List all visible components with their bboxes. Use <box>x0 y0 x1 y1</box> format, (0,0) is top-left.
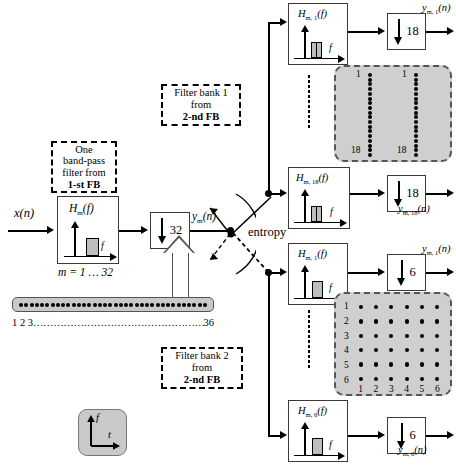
callout-bank2-line1: Filter bank 2 <box>175 350 229 362</box>
bank1-b1-filter-box: Hm, 1(f) f <box>288 3 348 65</box>
bank1-b2-arrowhead-out <box>447 189 454 197</box>
callout-stage1-line3: filter from <box>62 167 105 179</box>
bank2-b2-filter-arg: (f) <box>317 405 327 416</box>
bank2-b2-filter-label: H <box>298 405 306 416</box>
bank1-b1-filter-sub: m, 1 <box>306 14 318 21</box>
ft-legend-box: f t <box>78 409 127 456</box>
channel-dot <box>24 303 28 307</box>
downsample-arrow-icon <box>397 260 406 286</box>
bank1-b2-filter-sub: m, 18 <box>304 178 319 185</box>
bank1-b1-output-label: ym, 1(n) <box>422 2 450 15</box>
channel-dot <box>61 303 65 307</box>
callout-bank1-line1: Filter bank 1 <box>174 87 228 99</box>
downsample-arrow-icon <box>394 19 403 45</box>
channel-dot <box>40 303 44 307</box>
bank1-b2-arrowhead-mid <box>378 189 385 197</box>
bank2-b1-output-label: ym, 1(n) <box>422 243 450 256</box>
bank1-b2-wire-out <box>426 193 449 195</box>
channel-dot <box>72 303 76 307</box>
bank1-bus <box>268 22 270 194</box>
bank1-tiling-column-2 <box>414 73 418 157</box>
channel-dot <box>156 303 160 307</box>
diagram-canvas: One band-pass filter from 1-st FB x(n) H… <box>0 0 456 466</box>
channel-dot <box>35 303 39 307</box>
bank1-b1-filter-label: H <box>298 8 306 19</box>
input-arrowhead <box>47 226 54 234</box>
callout-bank1: Filter bank 1 from 2-nd FB <box>161 84 241 126</box>
bank1-b1-axis-f-label: f <box>329 42 332 53</box>
bank2-b1-filter-label: H <box>298 248 306 259</box>
bank2-b1-axis-f-label: f <box>329 282 332 293</box>
bank1-tiling-column-1 <box>368 73 372 157</box>
bank1-b2-filter-arg: (f) <box>318 172 328 183</box>
channel-dot <box>66 303 70 307</box>
channel-strip-axis: 1 2 3 …………………………………………………………… 36 <box>12 317 214 328</box>
callout-bank2-line2: from <box>192 362 212 374</box>
bank2-b2-spectrum-plot: f <box>294 424 346 460</box>
channel-dot <box>82 303 86 307</box>
channel-dot <box>161 303 165 307</box>
channel-dot <box>108 303 112 307</box>
stage1-filter-arg: (f) <box>83 202 94 214</box>
bank1-col2-bottom-label: 18 <box>397 145 407 155</box>
bank1-b1-spectrum-plot: f <box>294 27 346 63</box>
bank2-b2-arrowhead-out <box>447 431 454 439</box>
bank2-column-label: 3 <box>389 384 394 394</box>
callout-bank1-line3: 2-nd FB <box>183 111 219 123</box>
bank2-b2-wire-out <box>426 435 449 437</box>
callout-stage1-line4: 1-st FB <box>68 179 100 191</box>
bank2-b2-arrowhead-in <box>280 431 287 439</box>
bank2-b1-wire-out <box>426 272 449 274</box>
bank2-column-label: 4 <box>404 384 409 394</box>
bank2-b1-wire-mid <box>348 272 380 274</box>
channel-dot <box>45 303 49 307</box>
entropy-label: entropy <box>248 225 286 240</box>
ft-legend-f-label: f <box>96 412 99 423</box>
bank1-b2-arrowhead-in <box>280 189 287 197</box>
channel-dot <box>119 303 123 307</box>
bank2-continuation-dots <box>308 310 310 370</box>
bank2-b2-filter-sub: m, 6 <box>306 411 318 418</box>
callout-stage1-filter: One band-pass filter from 1-st FB <box>51 141 117 193</box>
bank1-b2-spectrum-plot: f <box>294 191 348 227</box>
bank2-column-label: 6 <box>435 384 440 394</box>
channel-dot <box>177 303 181 307</box>
input-wire <box>8 230 48 232</box>
bank2-b2-axis-f-label: f <box>329 439 332 450</box>
bank2-b1-arrowhead-out <box>447 268 454 276</box>
channel-dot <box>129 303 133 307</box>
bank1-b1-downsample-factor: 18 <box>406 24 419 39</box>
channel-dot <box>150 303 154 307</box>
channel-dot <box>77 303 81 307</box>
bank2-b2-output-label: ym, 6(n) <box>398 444 426 457</box>
entropy-selector-arc <box>196 188 256 280</box>
bank2-b1-filter-arg: (f) <box>317 248 327 259</box>
bank1-continuation-dots <box>308 75 310 130</box>
channel-dot <box>166 303 170 307</box>
channel-dot <box>145 303 149 307</box>
stage1-axis-f-label: f <box>101 240 104 251</box>
channel-dot <box>87 303 91 307</box>
bank2-column-labels: 1 2 3 4 5 6 <box>353 384 445 394</box>
bank2-b1-filter-sub: m, 1 <box>306 254 318 261</box>
bank2-tiling-box: 1 2 3 4 5 6 1 2 3 4 5 6 <box>334 292 452 396</box>
bank2-b2-arrowhead-mid <box>378 431 385 439</box>
channel-dot <box>187 303 191 307</box>
bank1-b1-arrowhead-mid <box>378 27 385 35</box>
channel-dot <box>93 303 97 307</box>
bank2-b2-downsample-factor: 6 <box>409 428 415 443</box>
bank1-b2-axis-f-label: f <box>330 206 333 217</box>
bank1-col1-top-label: 1 <box>356 69 361 79</box>
channel-dot <box>140 303 144 307</box>
bank1-b1-wire-out <box>426 31 449 33</box>
bank1-b2-filter-box: Hm, 18(f) f <box>288 167 350 229</box>
bank1-b2-downsample-factor: 18 <box>406 186 419 201</box>
bank1-b1-wire-mid <box>348 31 380 33</box>
channel-strip-leader: …………………………………………………………… <box>33 317 204 328</box>
channel-dot <box>19 303 23 307</box>
channel-dot <box>103 303 107 307</box>
channel-dot <box>30 303 34 307</box>
bank1-b2-wire-mid <box>350 193 380 195</box>
bank2-b1-downsample-factor: 6 <box>409 265 415 280</box>
bank2-b1-arrowhead-mid <box>378 268 385 276</box>
